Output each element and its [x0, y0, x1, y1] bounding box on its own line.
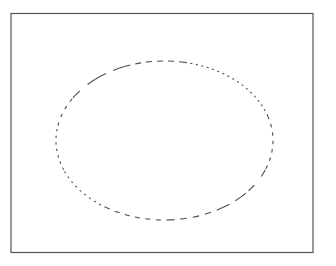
figure-canvas: [0, 0, 336, 266]
figure-background: [0, 0, 336, 266]
figure-root: [0, 0, 336, 266]
